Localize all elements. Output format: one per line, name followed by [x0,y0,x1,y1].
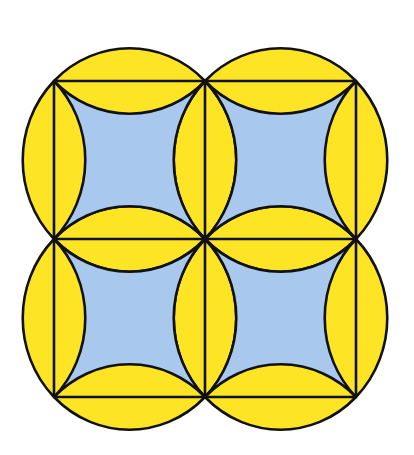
diagram-geometry [23,48,388,429]
geometric-diagram [0,0,414,455]
diagram-scene [23,48,388,429]
